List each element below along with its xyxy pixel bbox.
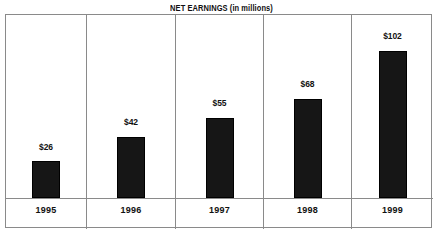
bar-1999[interactable] — [379, 51, 407, 198]
bar-column-1997: $55 1997 — [176, 15, 263, 229]
category-label-1997: 1997 — [176, 205, 263, 215]
category-label-1996: 1996 — [87, 205, 175, 215]
bar-zone-1999: $102 — [352, 15, 433, 198]
category-label-1995: 1995 — [6, 205, 86, 215]
bar-1996[interactable] — [117, 137, 145, 198]
category-label-1998: 1998 — [264, 205, 351, 215]
bar-column-1995: $26 1995 — [6, 15, 86, 229]
bar-1995[interactable] — [32, 161, 60, 198]
bar-value-label-1998: $68 — [264, 79, 351, 89]
bar-column-1999: $102 1999 — [352, 15, 433, 229]
bar-zone-1997: $55 — [176, 15, 263, 198]
bar-1997[interactable] — [206, 118, 234, 198]
plot-frame: $26 1995 $42 1996 $55 1997 $68 — [5, 14, 432, 228]
bar-zone-1998: $68 — [264, 15, 351, 198]
bar-value-label-1999: $102 — [352, 31, 433, 41]
category-label-1999: 1999 — [352, 205, 433, 215]
bar-value-label-1996: $42 — [87, 117, 175, 127]
bar-zone-1995: $26 — [6, 15, 86, 198]
bar-column-1996: $42 1996 — [87, 15, 175, 229]
bar-value-label-1997: $55 — [176, 98, 263, 108]
bar-value-label-1995: $26 — [6, 142, 86, 152]
net-earnings-chart: NET EARNINGS (in millions) $26 1995 $42 … — [0, 0, 443, 235]
bar-zone-1996: $42 — [87, 15, 175, 198]
bar-1998[interactable] — [294, 99, 322, 198]
bar-column-1998: $68 1998 — [264, 15, 351, 229]
chart-title: NET EARNINGS (in millions) — [27, 3, 417, 13]
